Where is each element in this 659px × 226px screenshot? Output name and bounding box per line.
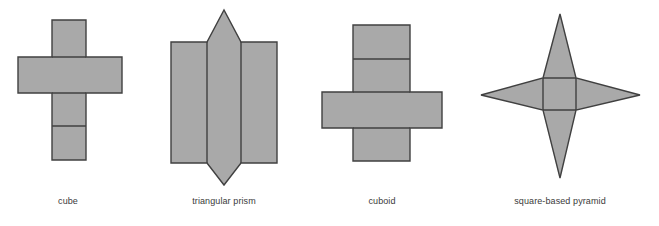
net-label-triangular-prism: triangular prism	[192, 196, 256, 206]
net-cube-outline	[18, 20, 122, 160]
nets-diagram	[0, 0, 659, 226]
net-square-based-pyramid-outline	[481, 14, 640, 178]
net-cuboid	[322, 25, 442, 161]
net-triangular-prism	[171, 10, 277, 185]
nets-figure: cubetriangular prismcuboidsquare-based p…	[0, 0, 659, 226]
net-label-square-based-pyramid: square-based pyramid	[514, 196, 606, 206]
net-cuboid-outline	[322, 25, 442, 161]
net-label-cube: cube	[58, 196, 78, 206]
net-square-based-pyramid	[481, 14, 640, 178]
net-label-cuboid: cuboid	[368, 196, 395, 206]
net-cube	[18, 20, 122, 160]
net-triangular-prism-outline	[171, 10, 277, 185]
